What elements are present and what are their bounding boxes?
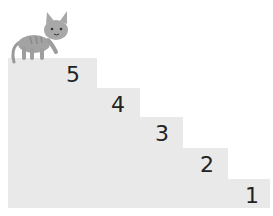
step-1 — [8, 179, 270, 208]
step-label-4: 4 — [111, 94, 125, 116]
step-label-3: 3 — [155, 123, 169, 145]
step-label-1: 1 — [245, 185, 259, 207]
cat-icon — [10, 8, 76, 64]
step-label-2: 2 — [200, 154, 214, 176]
step-label-5: 5 — [66, 64, 80, 86]
